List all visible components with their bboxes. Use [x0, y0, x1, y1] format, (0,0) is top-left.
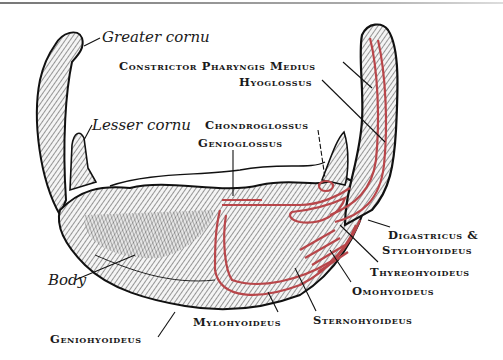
leader-greater-cornu: [84, 38, 100, 46]
label-stylohyoideus: Stylohyoideus: [382, 243, 472, 257]
hyoid-diagram: Greater cornu Lesser cornu Body Constric…: [0, 0, 503, 360]
leader-geniohyoideus: [158, 312, 175, 337]
label-geniohyoideus: Geniohyoideus: [50, 332, 142, 346]
right-lesser-cornu: [322, 132, 348, 185]
left-lesser-cornu: [70, 133, 96, 190]
leader-lesser-cornu: [84, 125, 92, 140]
label-chondroglossus: Chondroglossus: [205, 118, 309, 132]
leader-digastricus: [368, 220, 390, 227]
label-digastricus: Digastricus &: [388, 228, 478, 242]
label-constrictor-pharyngis-medius: Constrictor Pharyngis Medius: [119, 59, 316, 73]
label-genioglossus: Genioglossus: [198, 136, 283, 150]
label-thyreohyoideus: Thyreohyoideus: [370, 265, 470, 279]
label-mylohyoideus: Mylohyoideus: [193, 315, 281, 329]
hyoid-illustration: [0, 0, 503, 360]
label-omohyoideus: Omohyoideus: [352, 284, 434, 298]
leader-chondroglossus: [318, 130, 325, 178]
label-body: Body: [48, 271, 86, 289]
label-lesser-cornu: Lesser cornu: [92, 116, 191, 134]
label-greater-cornu: Greater cornu: [102, 28, 210, 46]
right-greater-cornu: [345, 25, 398, 225]
label-hyoglossus: Hyoglossus: [239, 75, 312, 89]
label-sternohyoideus: Sternohyoideus: [313, 313, 412, 327]
